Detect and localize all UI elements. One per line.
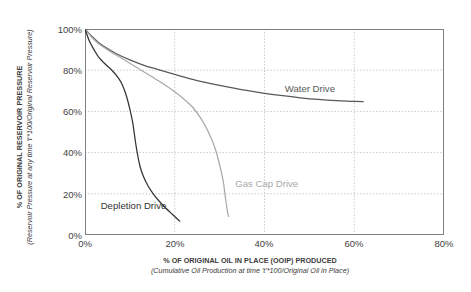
series-curve-depletion-drive [85, 29, 180, 221]
x-axis-title-main: % OF ORIGINAL OIL IN PLACE (OOIP) PRODUC… [60, 256, 440, 265]
x-tick-80: 80% [424, 239, 464, 249]
y-tick-20: 20% [48, 190, 82, 200]
y-axis-title-main: % OF ORIGINAL RESERVOIR PRESSURE [15, 23, 24, 251]
x-axis-title: % OF ORIGINAL OIL IN PLACE (OOIP) PRODUC… [60, 256, 440, 276]
series-label-depletion-drive: Depletion Drive [101, 201, 167, 211]
x-tick-0: 0% [65, 239, 105, 249]
y-tick-100: 100% [48, 25, 82, 35]
y-tick-40: 40% [48, 148, 82, 158]
plot-area: Water Drive Gas Cap Drive Depletion Driv… [85, 29, 444, 235]
series-paths [85, 29, 363, 221]
x-axis-title-sub: (Cumulative Oil Production at time 't'*1… [60, 266, 440, 275]
reservoir-pressure-chart: % OF ORIGINAL RESERVOIR PRESSURE (Reserv… [0, 0, 471, 292]
x-tick-20: 20% [155, 239, 195, 249]
series-curve-gas-cap-drive [85, 29, 229, 216]
x-tick-60: 60% [334, 239, 374, 249]
vertical-gridlines [175, 29, 355, 235]
series-label-water-drive: Water Drive [285, 84, 335, 94]
x-axis-tick-labels: 0% 20% 40% 60% 80% [0, 239, 471, 253]
y-axis-title-sub: (Reservoir Pressure at any time 't'*100/… [25, 23, 34, 251]
x-tick-40: 40% [244, 239, 284, 249]
y-tick-60: 60% [48, 107, 82, 117]
y-tick-80: 80% [48, 66, 82, 76]
series-label-gas-cap-drive: Gas Cap Drive [235, 179, 298, 189]
